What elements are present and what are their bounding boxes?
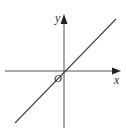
x-axis-label: x: [113, 73, 120, 87]
coordinate-diagram: y x O: [0, 0, 126, 131]
origin-label: O: [54, 72, 62, 84]
diagram-svg: y x O: [0, 0, 126, 131]
y-axis-label: y: [54, 11, 61, 25]
y-axis-arrow-icon: [61, 14, 68, 24]
